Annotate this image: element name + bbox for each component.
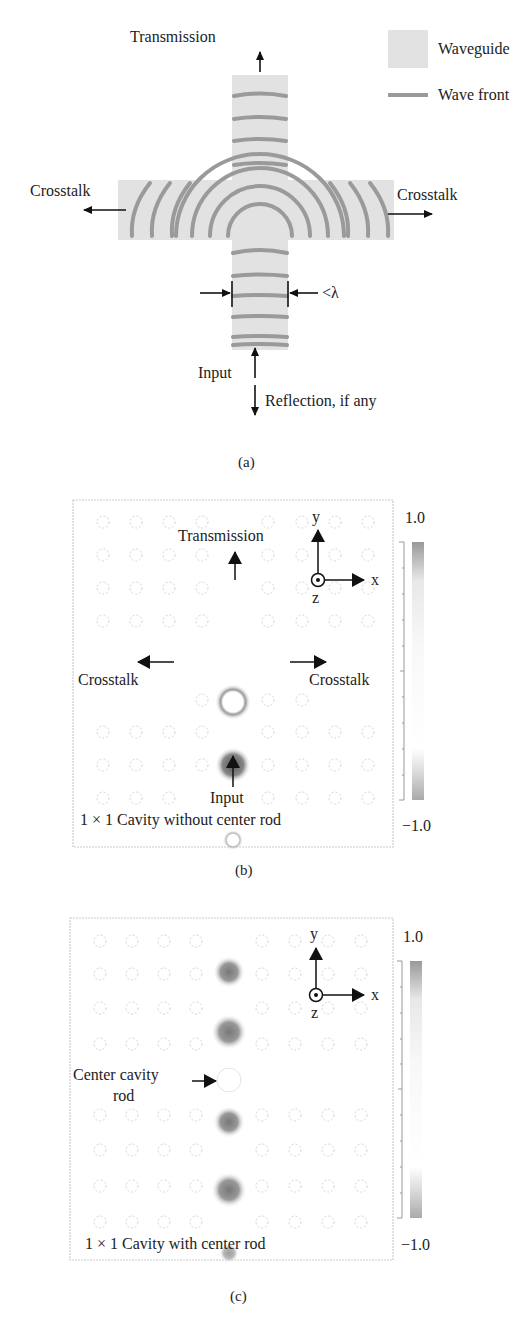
field-spot	[213, 956, 245, 988]
axis-y-label: y	[310, 925, 318, 943]
colorbar	[410, 961, 422, 1218]
colorbar-max-label: 1.0	[403, 928, 423, 946]
panel-c-title: 1 × 1 Cavity with center rod	[85, 1235, 266, 1253]
field-spot	[211, 1172, 247, 1208]
caption-c: (c)	[230, 1288, 247, 1305]
field-spot	[211, 1014, 247, 1050]
field-spot	[213, 1106, 245, 1138]
axis-x-label: x	[371, 986, 379, 1004]
center-rod	[217, 1068, 241, 1092]
axis-z-label: z	[311, 1004, 318, 1022]
center-rod-label-line2: rod	[113, 1087, 134, 1105]
center-rod-label-line1: Center cavity	[73, 1066, 159, 1084]
colorbar-min-label: −1.0	[401, 1236, 430, 1254]
